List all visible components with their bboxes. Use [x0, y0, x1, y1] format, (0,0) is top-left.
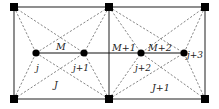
label-cell-J: J: [52, 79, 59, 90]
label-node-j: j: [34, 63, 39, 73]
label-node-j2: j+2: [133, 63, 151, 73]
mesh-diagram: j j+1 j+2 j+3 M M+1 M+2 J J+1: [0, 0, 219, 109]
corner-square-tl: [10, 3, 18, 11]
corner-square-tm: [105, 3, 113, 11]
node-j1: [80, 49, 87, 56]
corner-square-bl: [10, 95, 18, 103]
corner-square-br: [201, 95, 209, 103]
label-node-j3: j+3: [185, 50, 203, 60]
label-node-j1: j+1: [71, 63, 89, 73]
label-edge-M1: M+1: [111, 42, 136, 53]
label-cell-J1: J+1: [150, 82, 170, 93]
node-j: [32, 49, 39, 56]
corner-square-tr: [201, 3, 209, 11]
node-j2: [137, 49, 144, 56]
label-edge-M2: M+2: [147, 42, 172, 53]
label-edge-M: M: [55, 41, 66, 52]
corner-square-bm: [105, 95, 113, 103]
